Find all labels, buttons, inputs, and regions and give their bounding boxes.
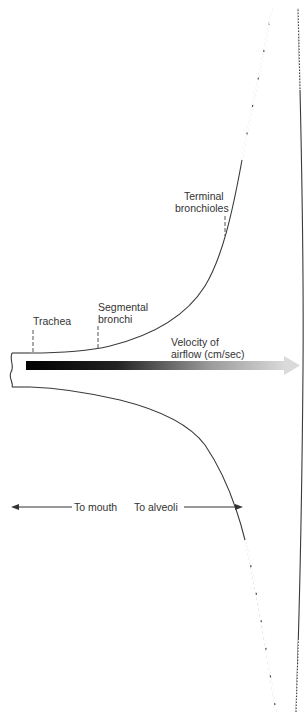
- segmental-bronchi-label-line2: bronchi: [98, 313, 132, 325]
- airway-diagram: [0, 0, 308, 720]
- terminal-bronchioles-label-line1: Terminal: [184, 190, 224, 202]
- to-alveoli-label: To alveoli: [134, 501, 178, 513]
- upper-airway-curve: [30, 8, 272, 353]
- to-mouth-label: To mouth: [74, 501, 117, 513]
- to-mouth-arrow: [11, 504, 72, 510]
- trachea-label: Trachea: [33, 315, 71, 327]
- terminal-bronchioles-label-line2: bronchioles: [175, 202, 229, 214]
- velocity-label-line2: airflow (cm/sec): [171, 348, 245, 360]
- segmental-bronchi-label-line1: Segmental: [98, 301, 148, 313]
- alveoli-boundary: [296, 8, 303, 712]
- velocity-label-line1: Velocity of: [171, 336, 219, 348]
- lower-airway-curve: [30, 387, 276, 712]
- velocity-arrow: [26, 356, 300, 375]
